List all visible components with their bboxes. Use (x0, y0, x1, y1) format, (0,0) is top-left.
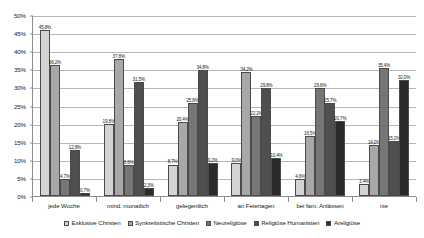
legend-label: Neureligiöse (214, 220, 247, 226)
bar-value-label: 10,4% (270, 154, 282, 159)
bar[interactable]: 20,7% (335, 121, 345, 196)
bar[interactable]: 4,6% (295, 179, 305, 196)
bar[interactable]: 25,8% (188, 103, 198, 196)
bar[interactable]: 36,2% (50, 65, 60, 196)
bar-slot: 29,8% (315, 16, 325, 196)
bar[interactable]: 31,5% (134, 82, 144, 196)
bar-slot: 45,8% (40, 16, 50, 196)
bar-slot: 35,4% (379, 16, 389, 196)
legend-label: Areligiöse (334, 220, 360, 226)
bar-slot: 25,8% (188, 16, 198, 196)
bar-slot: 16,5% (305, 16, 315, 196)
legend-item[interactable]: Areligiöse (326, 220, 360, 226)
bar-slot: 0,7% (80, 16, 90, 196)
bar[interactable]: 32,0% (399, 80, 409, 196)
bar-slot: 15,2% (389, 16, 399, 196)
bar-slot: 19,8% (104, 16, 114, 196)
bar[interactable]: 4,7% (60, 179, 70, 196)
y-axis-tick-label: 30% (14, 85, 26, 91)
legend-item[interactable]: Exklusive Christen (64, 220, 121, 226)
x-axis-category-label: mind. monatlich (96, 203, 160, 210)
legend-label: Religiöse Humanisten (261, 220, 319, 226)
x-axis-category-label: jede Woche (32, 203, 96, 210)
bar[interactable]: 45,8% (40, 30, 50, 196)
bar-value-label: 4,7% (60, 175, 70, 180)
bar[interactable]: 8,7% (168, 165, 178, 196)
bar-slot: 36,2% (50, 16, 60, 196)
bar-value-label: 8,6% (124, 161, 134, 166)
bar[interactable]: 9,2% (208, 163, 218, 196)
y-axis-tick-label: 25% (14, 103, 26, 109)
x-axis-category-label: an Feiertagen (224, 203, 288, 210)
category-separator-tick (352, 197, 353, 202)
bar-value-label: 9,2% (208, 159, 218, 164)
bar-slot: 12,8% (70, 16, 80, 196)
bar-group: 8,7%20,4%25,8%34,8%9,2% (161, 16, 225, 196)
bar[interactable]: 16,5% (305, 136, 315, 196)
bar-value-label: 3,4% (359, 180, 369, 185)
bar-group: 19,8%37,8%8,6%31,5%2,3% (97, 16, 161, 196)
bar-slot: 4,7% (60, 16, 70, 196)
bar-slot: 37,8% (114, 16, 124, 196)
bar-slot: 9,0% (231, 16, 241, 196)
y-axis: 50%45%40%35%30%25%20%15%10%5%0% (0, 16, 30, 197)
category-separator-tick (160, 197, 161, 202)
bar[interactable]: 34,2% (241, 72, 251, 196)
category-separator-tick (32, 197, 33, 202)
y-axis-tick-label: 50% (14, 13, 26, 19)
bar[interactable]: 2,3% (144, 188, 154, 196)
bar[interactable]: 12,8% (70, 150, 80, 196)
bar-slot: 22,2% (251, 16, 261, 196)
legend-swatch-icon (206, 221, 211, 226)
bar-slot: 20,7% (335, 16, 345, 196)
bar[interactable]: 29,8% (315, 88, 325, 196)
legend-swatch-icon (326, 221, 331, 226)
bar[interactable]: 10,4% (271, 158, 281, 196)
bar-value-label: 2,3% (144, 184, 154, 189)
bar[interactable]: 15,2% (389, 141, 399, 196)
bar[interactable]: 22,2% (251, 116, 261, 196)
bar[interactable]: 19,8% (104, 124, 114, 196)
bar-value-label: 20,7% (334, 117, 346, 122)
y-axis-tick-label: 5% (17, 176, 26, 182)
legend-item[interactable]: Synkretistische Christen (128, 220, 199, 226)
bar[interactable]: 9,0% (231, 163, 241, 196)
bar[interactable]: 20,4% (178, 122, 188, 196)
bar[interactable]: 34,8% (198, 70, 208, 196)
bar-slot: 20,4% (178, 16, 188, 196)
bar[interactable]: 3,4% (359, 184, 369, 196)
bar[interactable]: 8,6% (124, 165, 134, 196)
legend-item[interactable]: Religiöse Humanisten (254, 220, 320, 226)
bar-slot: 31,5% (134, 16, 144, 196)
legend-swatch-icon (128, 221, 133, 226)
bar[interactable]: 37,8% (114, 59, 124, 196)
y-axis-tick-label: 0% (17, 194, 26, 200)
y-axis-tick-label: 10% (14, 158, 26, 164)
bar-slot: 8,7% (168, 16, 178, 196)
x-axis-category-label: gelegentlich (160, 203, 224, 210)
bar-slot: 29,8% (261, 16, 271, 196)
legend-swatch-icon (64, 221, 69, 226)
bar-group: 45,8%36,2%4,7%12,8%0,7% (33, 16, 97, 196)
legend-label: Exklusive Christen (71, 220, 120, 226)
y-axis-tick-label: 35% (14, 67, 26, 73)
bar[interactable]: 14,0% (369, 145, 379, 196)
bar[interactable]: 0,7% (80, 193, 90, 196)
bar-value-label: 8,7% (168, 160, 178, 165)
y-axis-tick-label: 45% (14, 31, 26, 37)
bar[interactable]: 35,4% (379, 68, 389, 196)
bar-slot: 2,3% (144, 16, 154, 196)
bar-chart: 50%45%40%35%30%25%20%15%10%5%0% 45,8%36,… (0, 0, 424, 238)
bar[interactable]: 29,8% (261, 88, 271, 196)
legend-swatch-icon (254, 221, 259, 226)
bar-slot: 32,0% (399, 16, 409, 196)
y-axis-tick-label: 20% (14, 121, 26, 127)
category-separator-tick (96, 197, 97, 202)
bar-value-label: 32,0% (398, 76, 410, 81)
bar-slot: 25,7% (325, 16, 335, 196)
bar-slot: 14,0% (369, 16, 379, 196)
bar-group: 4,6%16,5%29,8%25,7%20,7% (288, 16, 352, 196)
legend-item[interactable]: Neureligiöse (206, 220, 247, 226)
bar-group: 9,0%34,2%22,2%29,8%10,4% (224, 16, 288, 196)
bar-slot: 4,6% (295, 16, 305, 196)
